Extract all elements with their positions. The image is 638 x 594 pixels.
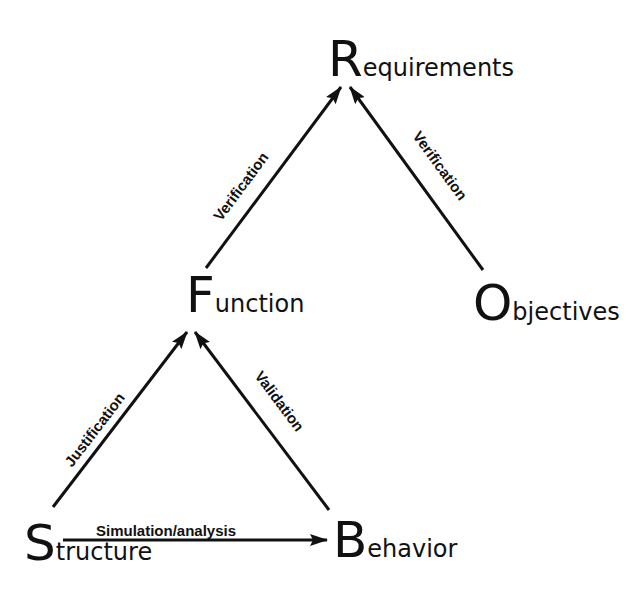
edge-label-verification-right: Verification [410,128,471,203]
arrow-icon [53,332,187,507]
node-structure-initial: S [24,514,56,572]
node-objectives-rest: bjectives [512,298,619,326]
node-objectives-initial: O [473,274,512,332]
svg-text:Objectives: Objectives [473,274,620,332]
edge-behavior-to-function: Validation [195,332,329,510]
arrow-icon [206,87,341,268]
node-function: Function [186,266,304,324]
node-function-rest: unction [215,290,305,318]
node-behavior-initial: B [333,511,367,569]
node-behavior: Behavior [333,511,458,569]
arrow-icon [350,87,483,270]
sbf-diagram: Requirements Function Objectives Structu… [0,0,638,594]
edge-function-to-requirements: Verification [206,87,341,268]
node-requirements-initial: R [328,30,363,88]
node-objectives: Objectives [473,274,620,332]
edge-structure-to-behavior: Simulation/analysis [63,522,327,540]
arrow-icon [195,332,329,510]
svg-text:Behavior: Behavior [333,511,458,569]
node-requirements: Requirements [328,30,514,88]
edge-objectives-to-requirements: Verification [350,87,483,270]
node-requirements-rest: equirements [363,54,514,82]
edge-label-simulation-analysis: Simulation/analysis [96,522,236,539]
node-structure-rest: tructure [56,538,152,566]
edge-structure-to-function: Justification [53,332,187,507]
edge-label-verification-left: Verification [210,149,272,224]
edge-label-validation: Validation [252,368,308,435]
node-behavior-rest: ehavior [367,535,457,563]
node-function-initial: F [186,266,215,324]
svg-text:Requirements: Requirements [328,30,514,88]
svg-text:Function: Function [186,266,304,324]
edge-label-justification: Justification [61,389,128,470]
